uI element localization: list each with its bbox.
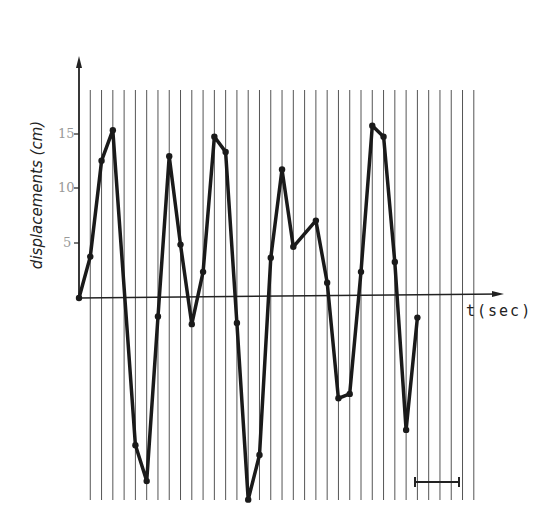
x-axis [79, 294, 500, 298]
data-point [358, 269, 364, 275]
data-point [279, 166, 285, 172]
data-point [414, 314, 420, 320]
data-point [110, 127, 116, 133]
data-point [189, 321, 195, 327]
y-tick-label-10: 10 [58, 180, 75, 195]
data-point [335, 395, 341, 401]
x-axis-arrow-icon [492, 291, 504, 297]
data-point [222, 149, 228, 155]
data-point [256, 452, 262, 458]
data-point [403, 427, 409, 433]
data-point [200, 269, 206, 275]
line-chart [0, 0, 556, 529]
data-point [369, 123, 375, 129]
data-point [155, 313, 161, 319]
x-axis-label: t(sec) [466, 302, 532, 320]
data-point [211, 133, 217, 139]
data-point [392, 259, 398, 265]
data-point [313, 217, 319, 223]
y-axis-arrow-icon [76, 56, 82, 68]
data-point [166, 153, 172, 159]
data-point [143, 478, 149, 484]
y-axis-label: displacements (cm) [28, 121, 46, 269]
scale-bar [415, 477, 459, 487]
data-point [76, 295, 82, 301]
data-point [98, 157, 104, 163]
data-point [177, 241, 183, 247]
data-point [380, 133, 386, 139]
data-point [245, 496, 251, 502]
data-point [132, 442, 138, 448]
data-point [268, 254, 274, 260]
data-point [324, 280, 330, 286]
data-point [87, 253, 93, 259]
y-tick-label-15: 15 [58, 126, 75, 141]
data-point [234, 320, 240, 326]
y-tick-label-5: 5 [63, 235, 71, 250]
data-point [290, 244, 296, 250]
data-point [347, 391, 353, 397]
